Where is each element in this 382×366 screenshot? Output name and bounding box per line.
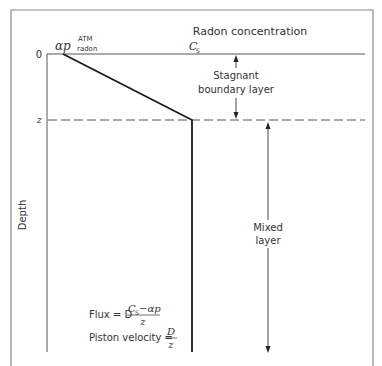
stagnant-label-line2: boundary layer <box>198 84 275 95</box>
mixed-arrow-head-up <box>266 122 271 129</box>
radon-profile-diagram: Radon concentration αp ATM radon C S 0 z… <box>0 0 382 366</box>
flux-denominator: z <box>139 316 146 327</box>
flux-numerator-rest: −αp <box>139 303 161 314</box>
piston-numerator: D <box>166 326 175 337</box>
mixed-label-line1: Mixed <box>253 222 283 233</box>
depth-tick-z: z <box>36 114 43 125</box>
stagnant-label-line1: Stagnant <box>213 70 259 81</box>
flux-prefix: Flux = D <box>89 309 133 320</box>
surface-concentration-symbol: αp <box>55 39 71 53</box>
depth-axis-label: Depth <box>17 200 28 230</box>
flux-equation: Flux = D C S −αp z <box>89 303 161 327</box>
piston-denominator: z <box>167 339 174 350</box>
mixed-label-line2: layer <box>255 235 281 246</box>
surface-concentration-sup: ATM <box>78 35 93 43</box>
piston-prefix: Piston velocity = <box>89 332 173 343</box>
surface-concentration-sub: radon <box>77 45 97 53</box>
piston-velocity-equation: Piston velocity = D z <box>89 326 177 350</box>
title: Radon concentration <box>193 25 308 38</box>
bulk-concentration-sub: S <box>196 47 200 54</box>
stagnant-arrow-head-down <box>234 112 239 119</box>
mixed-arrow-head-down <box>266 346 271 353</box>
depth-tick-zero: 0 <box>36 49 42 60</box>
stagnant-arrow-head-up <box>234 55 239 62</box>
